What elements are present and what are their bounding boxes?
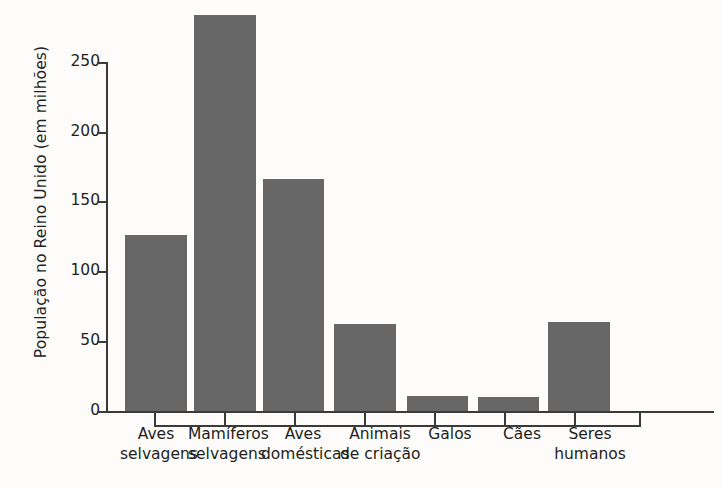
category-label-seres-humanos: Seres humanos [546,424,634,465]
category-label-line1: Animais [340,424,420,444]
category-label-mamiferos-selvagens: Mamíferos selvagens [188,424,264,465]
bar-chart: População no Reino Unido (em milhões) 0 … [0,0,722,488]
category-label-line1: Galos [412,424,488,444]
bar-caes [478,397,539,411]
y-axis-tick-labels: 0 50 100 150 200 250 [0,0,100,488]
category-label-line1: Mamíferos [188,424,264,444]
bar-seres-humanos [548,322,610,411]
category-label-line1: Aves [261,424,345,444]
y-axis-tick-250 [97,62,107,64]
bar-aves-selvagens [125,235,187,411]
plot-area [106,8,714,413]
bar-animais-de-criacao [334,324,396,411]
y-axis-line [106,62,108,412]
category-label-animais-de-criacao: Animais de criação [340,424,420,465]
y-axis-tick-200 [97,132,107,134]
y-axis-tick-150 [97,201,107,203]
category-label-aves-domesticas: Aves domésticas [261,424,345,465]
y-tick-label-200: 200 [70,124,100,140]
y-tick-label-250: 250 [70,54,100,70]
bar-mamiferos-selvagens [194,15,256,411]
x-axis-category-labels: Aves selvagens Mamíferos selvagens Aves … [106,424,722,484]
bar-aves-domesticas [263,179,324,411]
category-label-line2: de criação [340,444,420,464]
category-label-line2: humanos [546,444,634,464]
category-label-line1: Seres [546,424,634,444]
category-label-line2: domésticas [261,444,345,464]
category-label-line2: selvagens [188,444,264,464]
category-label-galos: Galos [412,424,488,444]
y-axis-tick-100 [97,271,107,273]
bar-galos [407,396,468,411]
category-label-aves-selvagens: Aves selvagens [120,424,192,465]
category-label-line1: Aves [120,424,192,444]
y-tick-label-100: 100 [70,263,100,279]
y-axis-tick-50 [97,341,107,343]
category-label-line2: selvagens [120,444,192,464]
y-tick-label-150: 150 [70,193,100,209]
